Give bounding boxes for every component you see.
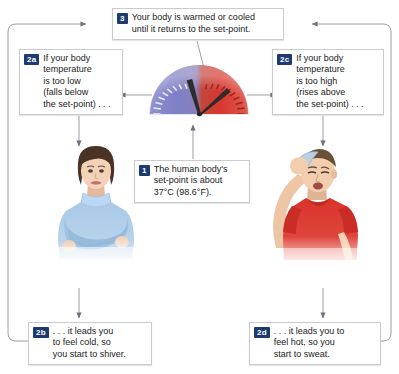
step-2b-text: . . . it leads you to feel cold, so you … [53, 326, 126, 360]
step-1-badge: 1 [139, 165, 150, 176]
step-2a-box[interactable]: 2a If your body temperature is too low (… [19, 49, 123, 115]
step-3-box[interactable]: 3 Your body is warmed or cooled until it… [112, 8, 284, 40]
step-2c-text: If your body temperature is too high (ri… [296, 53, 364, 110]
step-3-text: Your body is warmed or cooled until it r… [132, 12, 255, 35]
figure-woman-cold [48, 143, 144, 271]
step-2a-badge: 2a [24, 54, 39, 65]
step-2c-badge: 2c [277, 54, 292, 65]
step-1-box[interactable]: 1 The human body's set-point is about 37… [134, 160, 250, 203]
step-2b-badge: 2b [33, 327, 49, 338]
step-1-text: The human body's set-point is about 37°C… [154, 164, 228, 198]
step-2b-box[interactable]: 2b . . . it leads you to feel cold, so y… [28, 322, 152, 365]
step-3-badge: 3 [117, 13, 128, 24]
figure-man-hot [258, 140, 366, 274]
step-2d-text: . . . it leads you to feel hot, so you s… [274, 326, 345, 360]
temperature-gauge [147, 64, 251, 118]
step-2d-box[interactable]: 2d . . . it leads you to feel hot, so yo… [249, 322, 381, 365]
step-2c-box[interactable]: 2c If your body temperature is too high … [272, 49, 384, 115]
step-2d-badge: 2d [254, 327, 270, 338]
diagram-canvas: 3 Your body is warmed or cooled until it… [0, 0, 399, 374]
step-2a-text: If your body temperature is too low (fal… [43, 53, 111, 110]
